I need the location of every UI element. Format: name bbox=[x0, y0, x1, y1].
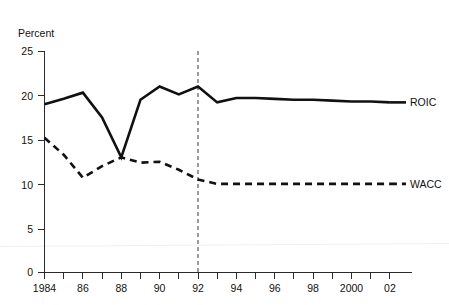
series-line-roic bbox=[45, 86, 390, 157]
y-tick-label: 0 bbox=[27, 266, 33, 278]
x-tick-label: 86 bbox=[77, 282, 89, 294]
background-band bbox=[0, 244, 449, 247]
x-axis-ticks bbox=[45, 273, 390, 280]
y-axis-ticks bbox=[38, 52, 45, 273]
x-tick-label: 02 bbox=[384, 282, 396, 294]
y-axis-title: Percent bbox=[18, 27, 54, 39]
x-tick-label: 90 bbox=[154, 282, 166, 294]
x-tick-label: 1984 bbox=[33, 282, 57, 294]
x-tick-label: 98 bbox=[307, 282, 319, 294]
x-tick-label: 96 bbox=[269, 282, 281, 294]
x-tick-label: 88 bbox=[115, 282, 127, 294]
y-tick-label: 5 bbox=[27, 223, 33, 235]
legend-label-wacc: WACC bbox=[410, 178, 442, 190]
y-tick-label: 10 bbox=[21, 179, 33, 191]
y-tick-label: 15 bbox=[21, 134, 33, 146]
line-chart: 25 20 15 10 5 0 Percent bbox=[0, 0, 449, 305]
x-axis-tick-labels: 1984 86 88 90 92 94 96 98 2000 02 bbox=[33, 282, 396, 294]
legend-label-roic: ROIC bbox=[410, 96, 437, 108]
chart-container: 25 20 15 10 5 0 Percent bbox=[0, 0, 449, 305]
y-tick-label: 25 bbox=[21, 45, 33, 57]
series-line-wacc bbox=[45, 138, 390, 184]
x-tick-label: 94 bbox=[231, 282, 243, 294]
x-tick-label: 2000 bbox=[340, 282, 364, 294]
y-tick-label: 20 bbox=[21, 90, 33, 102]
y-axis-tick-labels: 25 20 15 10 5 0 bbox=[21, 45, 33, 278]
x-tick-label: 92 bbox=[192, 282, 204, 294]
